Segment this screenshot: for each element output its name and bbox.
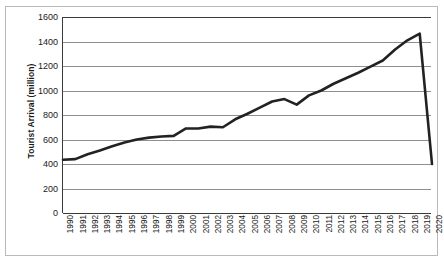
line-series-tourist-arrival xyxy=(63,17,432,213)
plot-wrapper: 16001400120010008006004002000 xyxy=(62,17,431,213)
x-tick-2007: 2007 xyxy=(275,215,284,233)
x-tick-1994: 1994 xyxy=(115,215,124,233)
x-tick-2020: 2020 xyxy=(435,215,444,233)
x-tick-2010: 2010 xyxy=(312,215,321,233)
y-tick-0: 0 xyxy=(53,208,58,218)
y-tick-1600: 1600 xyxy=(38,12,58,22)
x-tick-1996: 1996 xyxy=(140,215,149,233)
x-tick-1999: 1999 xyxy=(177,215,186,233)
x-tick-1993: 1993 xyxy=(103,215,112,233)
x-tick-2012: 2012 xyxy=(337,215,346,233)
y-axis-title: Tourist Arrival (million) xyxy=(26,31,36,191)
x-tick-2011: 2011 xyxy=(325,215,334,233)
y-tick-800: 800 xyxy=(43,110,58,120)
x-tick-2002: 2002 xyxy=(214,215,223,233)
x-tick-1992: 1992 xyxy=(91,215,100,233)
y-tick-400: 400 xyxy=(43,159,58,169)
y-tick-600: 600 xyxy=(43,135,58,145)
x-tick-2016: 2016 xyxy=(386,215,395,233)
x-tick-2003: 2003 xyxy=(226,215,235,233)
x-tick-2017: 2017 xyxy=(398,215,407,233)
y-tick-1200: 1200 xyxy=(38,61,58,71)
x-tick-2019: 2019 xyxy=(423,215,432,233)
x-tick-2009: 2009 xyxy=(300,215,309,233)
x-tick-2005: 2005 xyxy=(251,215,260,233)
gridline-0 xyxy=(63,213,431,214)
x-tick-2013: 2013 xyxy=(349,215,358,233)
x-tick-2008: 2008 xyxy=(288,215,297,233)
x-tick-2000: 2000 xyxy=(189,215,198,233)
plot-area: 16001400120010008006004002000 xyxy=(62,17,431,213)
y-tick-200: 200 xyxy=(43,184,58,194)
x-tick-2015: 2015 xyxy=(374,215,383,233)
x-tick-1998: 1998 xyxy=(165,215,174,233)
x-tick-2006: 2006 xyxy=(263,215,272,233)
x-tick-2004: 2004 xyxy=(238,215,247,233)
x-axis-tick-labels: 1990199119921993199419951996199719981999… xyxy=(62,215,431,260)
y-tick-1000: 1000 xyxy=(38,86,58,96)
x-tick-1995: 1995 xyxy=(128,215,137,233)
x-tick-1991: 1991 xyxy=(79,215,88,233)
series-polyline xyxy=(63,34,432,164)
x-tick-2001: 2001 xyxy=(202,215,211,233)
x-tick-2014: 2014 xyxy=(361,215,370,233)
chart-figure: Tourist Arrival (million) 16001400120010… xyxy=(0,0,444,263)
x-tick-1990: 1990 xyxy=(66,215,75,233)
x-tick-1997: 1997 xyxy=(152,215,161,233)
y-tick-1400: 1400 xyxy=(38,37,58,47)
x-tick-2018: 2018 xyxy=(411,215,420,233)
